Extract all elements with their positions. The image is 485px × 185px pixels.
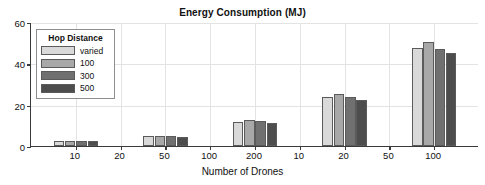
x-tick-label: 20 xyxy=(114,150,125,161)
y-tick-mark xyxy=(27,64,31,65)
bar xyxy=(155,136,166,146)
chart-title: Energy Consumption (MJ) xyxy=(0,7,485,18)
y-tick-mark xyxy=(27,23,31,24)
bar xyxy=(65,141,76,146)
legend-item[interactable]: 300 xyxy=(41,70,110,81)
legend: Hop Distance varied100300500 xyxy=(36,29,115,99)
legend-item-label: 500 xyxy=(80,83,94,93)
x-tick-label: 200 xyxy=(246,150,262,161)
legend-rows: varied100300500 xyxy=(41,45,110,94)
legend-item-label: varied xyxy=(80,46,103,56)
y-tick-mark xyxy=(27,147,31,148)
legend-item[interactable]: varied xyxy=(41,45,110,56)
legend-swatch xyxy=(41,84,75,93)
legend-item-label: 300 xyxy=(80,71,94,81)
gridline-horizontal xyxy=(31,106,478,107)
bar xyxy=(88,141,99,146)
y-tick-label: 20 xyxy=(14,100,25,111)
x-tick-label: 50 xyxy=(159,150,170,161)
y-tick-label: 0 xyxy=(20,142,25,153)
bar xyxy=(423,42,434,146)
gridline-vertical xyxy=(121,23,122,146)
legend-swatch xyxy=(41,46,75,55)
gridline-vertical xyxy=(210,23,211,146)
x-tick-label: 10 xyxy=(70,150,81,161)
x-tick-label: 50 xyxy=(383,150,394,161)
x-axis-title: Number of Drones xyxy=(0,166,485,177)
bar xyxy=(233,122,244,146)
legend-swatch xyxy=(41,59,75,68)
legend-swatch xyxy=(41,71,75,80)
x-tick-label: 10 xyxy=(294,150,305,161)
bar xyxy=(143,136,154,146)
gridline-vertical xyxy=(389,23,390,146)
x-tick-label: 20 xyxy=(338,150,349,161)
legend-item[interactable]: 100 xyxy=(41,58,110,69)
bar xyxy=(345,97,356,146)
bar xyxy=(76,141,87,146)
bar xyxy=(177,137,188,146)
bar xyxy=(166,136,177,146)
gridline-vertical xyxy=(165,23,166,146)
bar xyxy=(244,120,255,146)
gridline-horizontal xyxy=(31,23,478,24)
bar xyxy=(322,97,333,146)
bar xyxy=(267,123,278,146)
legend-item[interactable]: 500 xyxy=(41,83,110,94)
bar xyxy=(54,141,65,146)
bar xyxy=(446,53,457,146)
legend-item-label: 100 xyxy=(80,58,94,68)
legend-title: Hop Distance xyxy=(41,33,110,43)
bar xyxy=(435,49,446,146)
y-tick-mark xyxy=(27,106,31,107)
chart-figure: Energy Consumption (MJ) 0204060 10205010… xyxy=(0,0,485,185)
y-tick-label: 40 xyxy=(14,59,25,70)
x-tick-label: 100 xyxy=(425,150,441,161)
bar xyxy=(412,48,423,146)
bar xyxy=(334,94,345,146)
y-tick-label: 60 xyxy=(14,18,25,29)
x-tick-label: 100 xyxy=(201,150,217,161)
bar xyxy=(255,121,266,146)
bar xyxy=(356,100,367,146)
gridline-vertical xyxy=(300,23,301,146)
